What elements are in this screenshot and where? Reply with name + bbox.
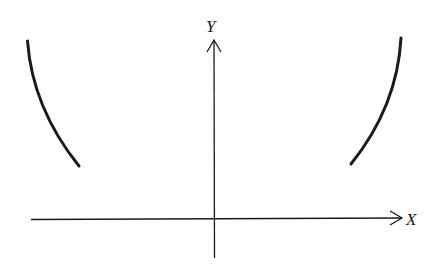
y-axis-label: Y xyxy=(206,17,217,36)
right-curve-branch xyxy=(351,38,401,164)
x-axis: X xyxy=(31,210,417,229)
y-axis: Y xyxy=(206,17,221,258)
coordinate-diagram: X Y xyxy=(0,0,442,267)
x-axis-label: X xyxy=(405,210,417,229)
left-curve-branch xyxy=(28,41,80,166)
